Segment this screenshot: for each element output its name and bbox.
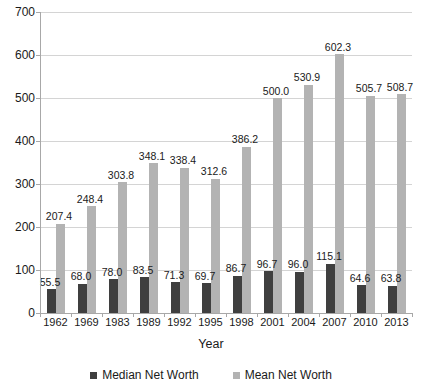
y-tick-mark [36,141,40,142]
y-tick-mark [36,55,40,56]
bar-group: 64.6505.7 [350,12,381,313]
bar-value-label-median: 55.5 [34,277,66,288]
bar-value-label-median: 86.7 [220,263,252,274]
y-tick-label: 400 [3,135,35,147]
y-tick-mark [36,270,40,271]
bar-value-label-median: 63.8 [375,273,407,284]
bar-value-label-median: 71.3 [158,270,190,281]
x-tick-mark [164,313,165,317]
bar-mean [273,98,282,313]
legend-swatch-icon [90,372,97,379]
y-tick-label: 200 [3,221,35,233]
x-tick-label: 1969 [71,316,102,329]
bar-value-label-median: 68.0 [65,271,97,282]
bar-median [388,286,397,313]
x-tick-mark [102,313,103,317]
bar-median [326,264,335,313]
bar-value-label-median: 115.1 [313,251,345,262]
bar-group: 55.5207.4 [40,12,71,313]
bar-value-label-median: 83.5 [127,265,159,276]
bar-mean [180,168,189,314]
bar-median [233,276,242,313]
x-tick-mark [381,313,382,317]
x-tick-mark [40,313,41,317]
legend-item[interactable]: Median Net Worth [90,368,199,382]
y-tick-label: 500 [3,92,35,104]
legend-item[interactable]: Mean Net Worth [233,368,332,382]
y-tick-mark [36,184,40,185]
bar-mean [118,182,127,313]
legend-label: Median Net Worth [102,368,199,382]
y-tick-label: 100 [3,264,35,276]
bar-chart: 0100200300400500600700 55.5207.468.0248.… [0,0,422,392]
bar-group: 83.5348.1 [133,12,164,313]
x-tick-label: 2010 [350,316,381,329]
x-tick-mark [350,313,351,317]
x-tick-mark [226,313,227,317]
x-tick-label: 1962 [40,316,71,329]
y-tick-mark [36,98,40,99]
bar-group: 96.0530.9 [288,12,319,313]
x-tick-label: 2001 [257,316,288,329]
bar-group: 63.8508.7 [381,12,412,313]
bar-median [357,285,366,313]
x-tick-label: 1992 [164,316,195,329]
plot-area: 55.5207.468.0248.478.0303.883.5348.171.3… [40,12,412,313]
x-tick-label: 2013 [381,316,412,329]
bar-mean [211,179,220,313]
bar-median [47,289,56,313]
bar-value-label-median: 96.7 [251,259,283,270]
x-tick-label: 2007 [319,316,350,329]
bar-mean [87,206,96,313]
y-axis-labels: 0100200300400500600700 [0,12,35,313]
x-tick-label: 1995 [195,316,226,329]
x-tick-mark [288,313,289,317]
bar-value-label-median: 78.0 [96,267,128,278]
bar-group: 71.3338.4 [164,12,195,313]
bar-mean [335,54,344,313]
bar-mean [56,224,65,313]
chart-legend: Median Net WorthMean Net Worth [0,368,422,382]
bar-median [264,271,273,313]
y-tick-label: 0 [3,307,35,319]
bar-median [140,277,149,313]
x-tick-mark [195,313,196,317]
bar-median [202,283,211,313]
y-axis-line [40,12,41,314]
x-tick-mark [133,313,134,317]
bar-median [295,272,304,313]
x-tick-label: 1998 [226,316,257,329]
y-tick-label: 700 [3,6,35,18]
x-tick-label: 2004 [288,316,319,329]
x-axis-labels: 1962196919831989199219951998200120042007… [40,316,412,332]
y-tick-label: 600 [3,49,35,61]
bar-mean [242,147,251,313]
bar-median [109,279,118,313]
bar-mean [304,85,313,313]
x-tick-mark [257,313,258,317]
legend-label: Mean Net Worth [245,368,332,382]
bar-median [171,282,180,313]
bar-value-label-median: 64.6 [344,273,376,284]
bar-group: 115.1602.3 [319,12,350,313]
legend-swatch-icon [233,372,240,379]
bar-mean [149,163,158,313]
y-tick-mark [36,227,40,228]
x-tick-label: 1989 [133,316,164,329]
x-tick-mark [412,313,413,317]
x-tick-mark [319,313,320,317]
bar-value-label-median: 96.0 [282,259,314,270]
x-tick-mark [71,313,72,317]
y-tick-mark [36,12,40,13]
x-tick-label: 1983 [102,316,133,329]
bar-median [78,284,87,313]
bar-value-label-mean: 508.7 [384,82,416,93]
bar-value-label-median: 69.7 [189,271,221,282]
x-axis-title: Year [0,337,422,351]
y-tick-label: 300 [3,178,35,190]
